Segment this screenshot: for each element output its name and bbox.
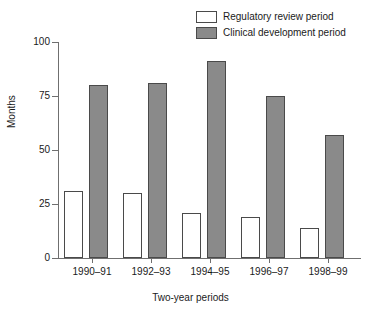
bar-regulatory-2 xyxy=(182,213,201,258)
bar-clinical-4 xyxy=(325,135,344,258)
bar-group-2 xyxy=(182,42,238,258)
x-axis-tick-1 xyxy=(151,258,152,263)
bar-clinical-2 xyxy=(207,61,226,258)
bar-clinical-0 xyxy=(89,85,108,258)
x-axis-title: Two-year periods xyxy=(0,292,381,303)
x-axis-tick-0 xyxy=(92,258,93,263)
bars-layer xyxy=(58,42,361,258)
y-axis-tick-label-75-wrap: 75 xyxy=(16,91,50,101)
y-axis-tick-label-25-wrap: 25 xyxy=(16,199,50,209)
bar-regulatory-0 xyxy=(64,191,83,258)
bar-group-3 xyxy=(241,42,297,258)
y-axis-tick-label-50-wrap: 50 xyxy=(16,145,50,155)
y-axis-tick-label-75: 75 xyxy=(20,91,50,101)
bar-regulatory-4 xyxy=(300,228,319,258)
bar-group-1 xyxy=(123,42,179,258)
y-axis-tick-label-100: 100 xyxy=(20,37,50,47)
x-axis-tick-label-4: 1998–99 xyxy=(288,266,368,278)
plot-area: Months 0 25 50 75 100 xyxy=(0,0,381,317)
bar-chart-figure: Regulatory review period Clinical develo… xyxy=(0,0,381,317)
y-axis-tick-0 xyxy=(52,258,58,259)
x-axis-tick-2 xyxy=(210,258,211,263)
bar-group-4 xyxy=(300,42,356,258)
x-axis-tick-3 xyxy=(269,258,270,263)
y-axis-tick-label-100-wrap: 100 xyxy=(16,37,50,47)
y-axis-tick-label-0-wrap: 0 xyxy=(16,253,50,263)
y-axis-tick-label-0: 0 xyxy=(20,253,50,263)
bar-regulatory-3 xyxy=(241,217,260,258)
bar-clinical-3 xyxy=(266,96,285,258)
bar-clinical-1 xyxy=(148,83,167,258)
y-axis-tick-label-25: 25 xyxy=(20,199,50,209)
x-axis-tick-4 xyxy=(328,258,329,263)
bar-regulatory-1 xyxy=(123,193,142,258)
bar-group-0 xyxy=(64,42,120,258)
y-axis-tick-label-50: 50 xyxy=(20,145,50,155)
